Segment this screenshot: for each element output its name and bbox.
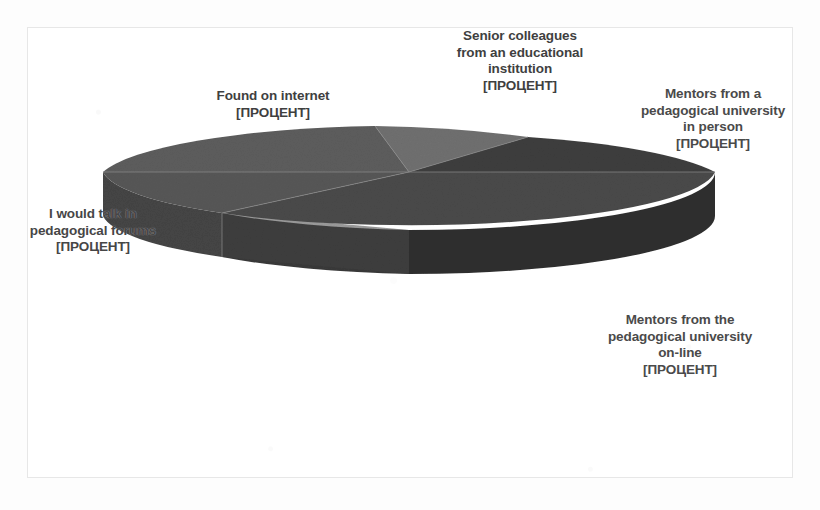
- data-label-mentors-in-person-name: Mentors from a pedagogical university in…: [641, 86, 785, 134]
- data-label-mentors-in-person-percent: [ПРОЦЕНТ]: [638, 136, 788, 153]
- data-label-found-on-internet-percent: [ПРОЦЕНТ]: [178, 105, 368, 122]
- data-label-pedagogical-forums-name: I would talk in pedagogical forums: [30, 206, 156, 238]
- chart-screenshot: Found on internet [ПРОЦЕНТ] Senior colle…: [0, 0, 820, 510]
- data-label-pedagogical-forums-percent: [ПРОЦЕНТ]: [28, 239, 158, 256]
- data-label-mentors-online-percent: [ПРОЦЕНТ]: [596, 362, 764, 379]
- data-label-mentors-online: Mentors from the pedagogical university …: [596, 312, 764, 378]
- data-label-mentors-in-person: Mentors from a pedagogical university in…: [638, 86, 788, 152]
- data-label-found-on-internet: Found on internet [ПРОЦЕНТ]: [178, 88, 368, 121]
- data-label-pedagogical-forums: I would talk in pedagogical forums [ПРОЦ…: [28, 206, 158, 256]
- data-label-mentors-online-name: Mentors from the pedagogical university …: [608, 312, 752, 360]
- data-label-senior-colleagues-percent: [ПРОЦЕНТ]: [450, 78, 590, 95]
- pie-slice-found-on-internet: [103, 126, 409, 172]
- data-label-found-on-internet-name: Found on internet: [216, 88, 329, 103]
- data-label-senior-colleagues-name: Senior colleagues from an educational in…: [457, 28, 583, 76]
- data-label-senior-colleagues: Senior colleagues from an educational in…: [450, 28, 590, 94]
